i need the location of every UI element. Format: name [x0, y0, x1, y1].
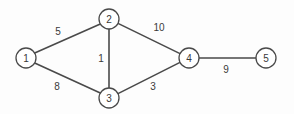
graph-canvas: 5 8 1 10 3 9 1 2 3 4	[0, 0, 294, 114]
node-label-5: 5	[263, 53, 269, 64]
edge-1-3	[35, 63, 101, 93]
graph-node-2[interactable]: 2	[99, 9, 119, 29]
edge-weight-1-3: 8	[54, 81, 60, 92]
graph-node-1[interactable]: 1	[16, 48, 36, 68]
edge-weight-1-2: 5	[55, 26, 61, 37]
edge-3-4	[118, 62, 180, 93]
edge-weight-2-3: 1	[98, 53, 104, 64]
edge-group	[35, 23, 256, 93]
node-label-2: 2	[106, 14, 112, 25]
node-label-4: 4	[186, 53, 192, 64]
edge-weight-4-5: 9	[223, 64, 229, 75]
edge-2-4	[118, 23, 180, 53]
graph-node-5[interactable]: 5	[256, 48, 276, 68]
edge-weight-2-4: 10	[153, 22, 165, 33]
edge-weight-3-4: 3	[150, 81, 156, 92]
graph-figure: 5 8 1 10 3 9 1 2 3 4	[0, 0, 294, 114]
edge-1-2	[35, 24, 101, 53]
node-label-1: 1	[23, 53, 29, 64]
graph-node-4[interactable]: 4	[179, 48, 199, 68]
node-label-3: 3	[106, 93, 112, 104]
graph-node-3[interactable]: 3	[99, 88, 119, 108]
